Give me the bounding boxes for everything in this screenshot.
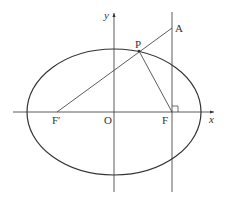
segment-p-f	[139, 51, 172, 112]
right-angle-mark	[172, 106, 178, 112]
point-p-label: P	[135, 38, 141, 50]
origin-label: O	[104, 114, 112, 126]
ellipse-diagram: y x O F′ F P A	[0, 0, 231, 202]
point-a-label: A	[175, 22, 183, 34]
focus-left-label: F′	[52, 114, 61, 126]
segment-fprime-a	[57, 28, 172, 112]
point-p	[138, 50, 141, 53]
y-axis-label: y	[103, 9, 109, 21]
focus-right-label: F	[162, 114, 168, 126]
x-axis-label: x	[208, 113, 214, 125]
